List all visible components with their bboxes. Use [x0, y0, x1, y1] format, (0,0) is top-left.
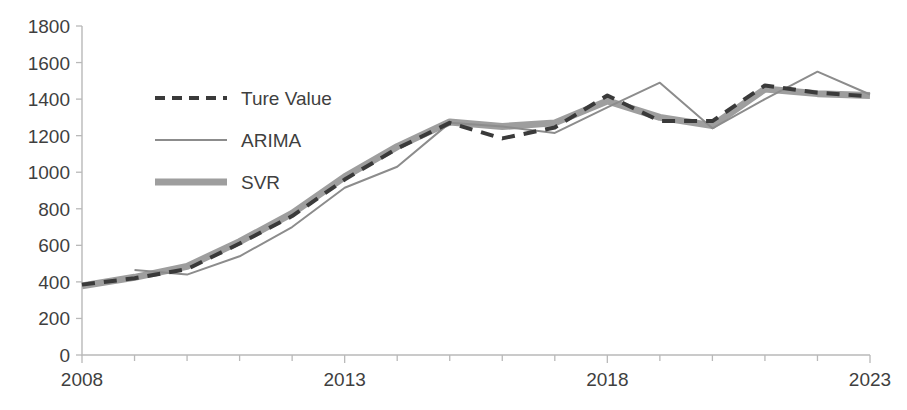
y-tick-label: 1800	[28, 16, 70, 37]
x-tick-label: 2008	[61, 369, 103, 390]
x-tick-label: 2018	[586, 369, 628, 390]
line-chart: 020040060080010001200140016001800 200820…	[0, 0, 907, 410]
axis-lines	[82, 26, 870, 355]
y-tick-label: 1200	[28, 126, 70, 147]
chart-legend: Ture ValueARIMASVR	[155, 88, 332, 193]
y-tick-label: 1600	[28, 53, 70, 74]
legend-item: Ture Value	[155, 88, 332, 109]
legend-item: ARIMA	[155, 130, 302, 151]
series-line-svr	[82, 89, 870, 286]
y-tick-label: 1000	[28, 162, 70, 183]
x-tick-label: 2023	[849, 369, 891, 390]
x-tick-label: 2013	[324, 369, 366, 390]
y-tick-label: 600	[38, 235, 70, 256]
legend-item: SVR	[155, 172, 280, 193]
legend-label: SVR	[241, 172, 280, 193]
y-tick-label: 200	[38, 308, 70, 329]
y-axis-tick-labels: 020040060080010001200140016001800	[28, 16, 70, 366]
x-axis-tick-labels: 2008201320182023	[61, 369, 891, 390]
y-tick-label: 1400	[28, 89, 70, 110]
y-tick-label: 800	[38, 199, 70, 220]
chart-canvas: 020040060080010001200140016001800 200820…	[0, 0, 907, 410]
y-tick-label: 400	[38, 272, 70, 293]
legend-label: Ture Value	[241, 88, 332, 109]
axes	[76, 26, 870, 363]
y-tick-label: 0	[59, 345, 70, 366]
legend-label: ARIMA	[241, 130, 302, 151]
